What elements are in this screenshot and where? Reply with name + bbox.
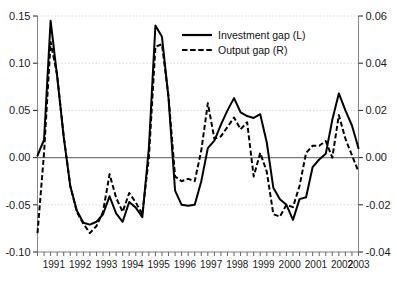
y-axis-left-tick-label: -0.05 [5,199,30,211]
y-axis-right-ticks [359,16,364,252]
dual-axis-line-chart: 0.150.100.050.00-0.05-0.10 0.060.040.020… [0,0,397,285]
x-axis-tick-label: 1998 [226,259,249,270]
x-axis-tick-label: 1997 [200,259,223,270]
x-axis-tick-label: 1993 [95,259,118,270]
y-axis-left-tick-label: 0.10 [9,57,30,69]
x-axis-tick-label: 2003 [347,259,370,270]
y-axis-left-ticks [33,16,38,252]
legend-label-output-gap: Output gap (R) [218,44,287,56]
y-axis-right-tick-label: -0.04 [366,246,391,258]
series-line-output-gap [38,42,359,233]
data-series [38,21,359,233]
y-axis-left-labels: 0.150.100.050.00-0.05-0.10 [5,10,30,258]
series-line-investment-gap [38,21,359,225]
y-axis-left-tick-label: -0.10 [5,246,30,258]
y-axis-right-tick-label: 0.06 [366,10,387,22]
y-axis-right-tick-label: -0.02 [366,199,391,211]
x-axis-tick-label: 1994 [121,259,144,270]
y-axis-right-tick-label: 0.04 [366,57,387,69]
chart-legend: Investment gap (L)Output gap (R) [182,29,306,56]
x-axis-tick-label: 2000 [279,259,302,270]
y-axis-right-tick-label: 0.02 [366,104,387,116]
y-axis-right-tick-label: 0.00 [366,151,387,163]
gridlines [38,16,359,252]
axis-spines [38,16,359,252]
legend-label-investment-gap: Investment gap (L) [218,29,306,41]
y-axis-right-labels: 0.060.040.020.00-0.02-0.04 [366,10,391,258]
x-axis-tick-label: 1995 [148,259,171,270]
x-axis-tick-label: 1999 [252,259,275,270]
x-axis-tick-label: 1996 [174,259,197,270]
x-axis-tick-label: 1992 [69,259,92,270]
y-axis-left-tick-label: 0.00 [9,151,30,163]
x-axis-tick-label: 1991 [43,259,66,270]
y-axis-left-tick-label: 0.05 [9,104,30,116]
y-axis-left-tick-label: 0.15 [9,10,30,22]
x-axis-tick-label: 2001 [305,259,328,270]
x-axis-labels: 1991199219931994199519961997199819992000… [43,259,370,270]
x-axis-ticks [38,252,359,256]
chart-figure: 0.150.100.050.00-0.05-0.10 0.060.040.020… [0,0,397,285]
